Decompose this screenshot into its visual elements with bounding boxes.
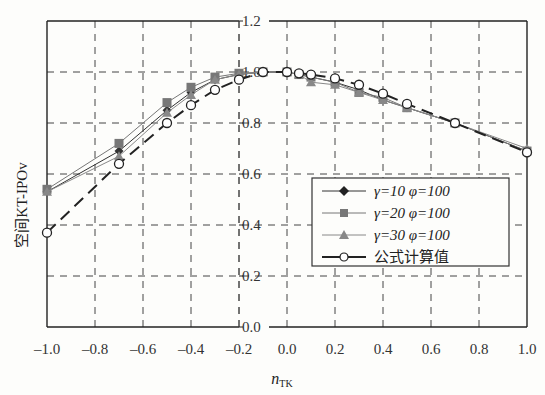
x-tick-label: –0.6 xyxy=(129,341,157,357)
open-circle-marker-icon xyxy=(211,85,220,94)
x-tick-label: –0.2 xyxy=(225,341,252,357)
y-tick-label: 0.4 xyxy=(242,217,261,233)
open-circle-marker-icon xyxy=(283,68,292,77)
legend-label: 公式计算值 xyxy=(374,248,449,265)
open-circle-marker-icon xyxy=(355,80,364,89)
open-circle-marker-icon xyxy=(259,68,268,77)
open-circle-marker-icon xyxy=(187,101,196,110)
square-marker-icon xyxy=(340,209,348,217)
line-chart: 0.00.20.40.60.81.01.2 –1.0–0.8–0.6–0.4–0… xyxy=(0,0,545,395)
x-tick-label: 0.6 xyxy=(422,341,441,357)
open-circle-marker-icon xyxy=(295,69,304,78)
open-circle-marker-icon xyxy=(235,75,244,84)
open-circle-marker-icon xyxy=(163,119,172,128)
legend-label: γ=20 φ=100 xyxy=(374,205,450,221)
x-tick-label: –0.4 xyxy=(177,341,205,357)
x-axis-title-main: n xyxy=(271,370,279,387)
x-tick-labels: –1.0–0.8–0.6–0.4–0.20.00.20.40.60.81.0 xyxy=(33,341,537,357)
x-tick-label: 0.2 xyxy=(326,341,345,357)
x-axis-title: nTK xyxy=(271,370,293,389)
square-marker-icon xyxy=(115,139,124,148)
open-circle-marker-icon xyxy=(523,148,532,157)
open-circle-marker-icon xyxy=(340,253,348,261)
y-tick-labels: 0.00.20.40.60.81.01.2 xyxy=(239,13,261,335)
y-axis-title: 空间KT-IPOv xyxy=(14,162,30,248)
y-tick-label: 0.0 xyxy=(242,319,261,335)
x-tick-label: –0.8 xyxy=(81,341,108,357)
square-marker-icon xyxy=(163,98,172,107)
legend: γ=10 φ=100 γ=20 φ=100 γ=30 φ=100 公式计算值 xyxy=(312,178,509,266)
x-tick-label: –1.0 xyxy=(33,341,60,357)
open-circle-marker-icon xyxy=(331,74,340,83)
y-tick-label: 0.2 xyxy=(242,268,261,284)
y-tick-label: 0.8 xyxy=(242,115,261,131)
y-tick-label: 1.2 xyxy=(242,13,261,29)
legend-label: γ=10 φ=100 xyxy=(374,183,450,199)
triangle-marker-icon xyxy=(162,108,172,117)
legend-label: γ=30 φ=100 xyxy=(374,227,450,243)
open-circle-marker-icon xyxy=(115,159,124,168)
x-tick-label: 0.4 xyxy=(374,341,393,357)
open-circle-marker-icon xyxy=(379,89,388,98)
x-tick-label: 1.0 xyxy=(518,341,537,357)
x-tick-label: 0.0 xyxy=(278,341,297,357)
open-circle-marker-icon xyxy=(43,228,52,237)
open-circle-marker-icon xyxy=(307,70,316,79)
y-tick-label: 0.6 xyxy=(242,166,261,182)
open-circle-marker-icon xyxy=(403,99,412,108)
open-circle-marker-icon xyxy=(451,119,460,128)
x-axis-title-sub: TK xyxy=(279,378,293,389)
x-tick-label: 0.8 xyxy=(470,341,489,357)
